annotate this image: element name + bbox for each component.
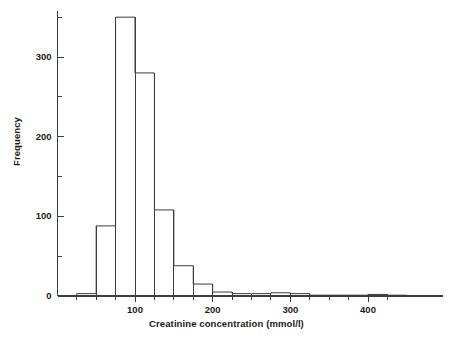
x-axis-tick-label: 100 xyxy=(115,304,155,315)
y-axis-tick-label: 100 xyxy=(12,210,52,221)
x-axis-tick-label: 400 xyxy=(348,304,388,315)
histogram-figure: Frequency Creatinine concentration (mmol… xyxy=(0,0,453,341)
histogram-plot-area xyxy=(0,0,453,341)
x-axis-tick-label: 300 xyxy=(270,304,310,315)
histogram-bars xyxy=(77,17,407,296)
histogram-outline xyxy=(77,17,407,296)
y-axis-tick-label: 300 xyxy=(12,51,52,62)
x-axis-tick-label: 200 xyxy=(193,304,233,315)
x-axis-label: Creatinine concentration (mmol/l) xyxy=(0,318,453,329)
chart-tick-marks xyxy=(58,17,388,302)
y-axis-tick-label: 0 xyxy=(12,290,52,301)
y-axis-tick-label: 200 xyxy=(12,131,52,142)
